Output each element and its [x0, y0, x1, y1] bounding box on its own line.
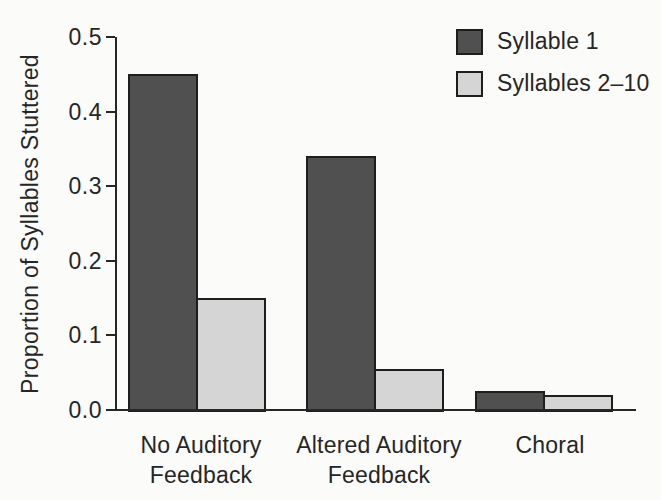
legend-label-syllables-2-10: Syllables 2–10	[497, 70, 649, 97]
y-tick-mark	[106, 36, 115, 38]
y-tick-label: 0.1	[58, 323, 102, 347]
bar-syllable-1-1	[128, 74, 198, 412]
category-label-altered-auditory-feedback: Altered Auditory Feedback	[296, 430, 462, 490]
stuttering-proportion-bar-chart: Proportion of Syllables Stuttered 0.00.1…	[0, 0, 661, 500]
y-tick-mark	[106, 260, 115, 262]
legend-swatch-syllables-2-10	[456, 71, 483, 97]
y-tick-label: 0.2	[58, 249, 102, 273]
legend: Syllable 1 Syllables 2–10	[456, 28, 649, 97]
bar-syllables-2-10-2	[374, 369, 444, 412]
y-tick-label: 0.5	[58, 25, 102, 49]
y-tick-label: 0.3	[58, 174, 102, 198]
x-axis-line	[115, 409, 636, 411]
y-tick-mark	[106, 185, 115, 187]
y-tick-label: 0.0	[58, 398, 102, 422]
y-tick-mark	[106, 111, 115, 113]
y-tick-label: 0.4	[58, 100, 102, 124]
legend-item-syllables-2-10: Syllables 2–10	[456, 70, 649, 97]
legend-label-syllable-1: Syllable 1	[497, 28, 599, 55]
category-label-no-auditory-feedback: No Auditory Feedback	[140, 430, 261, 490]
legend-item-syllable-1: Syllable 1	[456, 28, 649, 55]
bar-syllable-1-2	[306, 156, 376, 412]
y-tick-mark	[106, 334, 115, 336]
y-tick-mark	[106, 409, 115, 411]
y-axis-line	[115, 37, 117, 411]
category-label-choral: Choral	[516, 430, 585, 460]
bar-syllables-2-10-1	[196, 298, 266, 412]
legend-swatch-syllable-1	[456, 29, 483, 55]
y-axis-title: Proportion of Syllables Stuttered	[17, 54, 44, 394]
